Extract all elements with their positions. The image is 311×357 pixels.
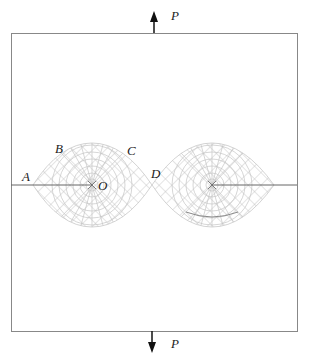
- load-label-top: P: [170, 8, 179, 23]
- point-label-o: O: [98, 178, 108, 193]
- diagram-canvas: P P A B C D O: [0, 0, 311, 357]
- load-label-bottom: P: [170, 336, 179, 351]
- point-label-b: B: [55, 141, 63, 156]
- point-label-a: A: [21, 169, 30, 184]
- point-label-c: C: [127, 143, 136, 158]
- point-label-d: D: [150, 166, 161, 181]
- load-arrow-up-icon: [150, 11, 158, 33]
- load-arrow-down-icon: [148, 331, 156, 353]
